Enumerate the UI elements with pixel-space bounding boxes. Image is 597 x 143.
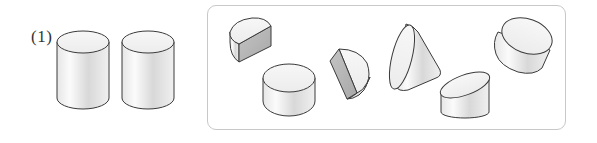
oblique-cut-cylinder-upright-icon [439,68,493,120]
half-cylinder-standing-icon [329,47,373,103]
tilted-cylinder-icon [490,14,556,78]
cylinder-a-icon [56,30,110,112]
problem-label: (1) [31,27,52,47]
cylinder-b-icon [121,30,175,112]
short-cylinder-icon [262,63,316,119]
oblique-cut-cylinder-tilted-icon [388,22,446,94]
half-cylinder-icon [228,16,274,66]
